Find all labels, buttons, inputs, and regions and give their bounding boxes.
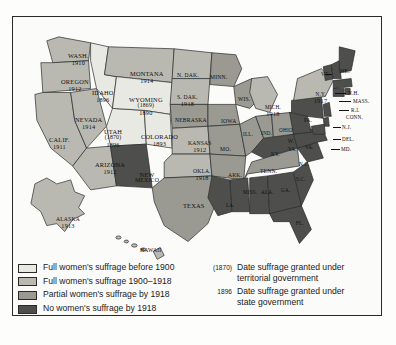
- state-texas: [152, 176, 218, 242]
- hawaii-islands: [116, 236, 164, 259]
- legend-swatch-tier_partial_by_1918: [18, 291, 37, 300]
- suffrage-map-figure: .s{stroke:#2a2a2a;stroke-width:.7;stroke…: [0, 0, 396, 345]
- leader-line-nh: [335, 93, 346, 94]
- state-new-mexico: [110, 144, 152, 188]
- legend-note-0: (1870)Date suffrage granted underterrito…: [202, 262, 382, 283]
- state-ark: [210, 154, 246, 180]
- legend-swatch-tier_full_before_1900: [18, 264, 37, 273]
- legend-notes-column: (1870)Date suffrage granted underterrito…: [202, 262, 382, 310]
- state-wash: [47, 37, 91, 63]
- legend-note-line1: Date suffrage granted under: [237, 286, 344, 297]
- non-contiguous-states: [31, 178, 164, 259]
- state-nj: [323, 102, 331, 116]
- state-utah: [106, 108, 146, 146]
- legend-label: No women's suffrage by 1918: [43, 303, 156, 314]
- state-sdak: [170, 79, 210, 105]
- leader-line-del: [333, 139, 341, 140]
- state-colorado: [144, 110, 172, 148]
- legend-label: Full women's suffrage before 1900: [43, 262, 174, 273]
- legend-note-1: 1896Date suffrage granted understate gov…: [202, 286, 382, 307]
- state-kansas: [172, 126, 210, 154]
- legend-note-date: 1896: [202, 286, 232, 297]
- state-mich: [250, 77, 278, 113]
- legend-note-line2: state government: [237, 297, 344, 308]
- legend-row-0: Full women's suffrage before 1900: [18, 262, 203, 274]
- legend-note-description: Date suffrage granted understate governm…: [237, 286, 344, 307]
- leader-line-md: [331, 149, 340, 150]
- state-md: [311, 124, 325, 134]
- state-okla: [164, 154, 212, 178]
- legend-note-description: Date suffrage granted underterritorial g…: [237, 262, 344, 283]
- west-states: [35, 37, 174, 190]
- state-me: [339, 47, 355, 73]
- state-miss: [230, 178, 250, 212]
- legend-row-1: Full women's suffrage 1900–1918: [18, 276, 203, 288]
- legend-note-date: (1870): [202, 262, 232, 273]
- state-iowa: [208, 104, 240, 126]
- state-alaska: [31, 178, 85, 232]
- state-nebraska: [170, 104, 208, 128]
- legend-note-line1: Date suffrage granted under: [237, 262, 344, 273]
- leader-line-nj: [333, 127, 341, 128]
- state-mo: [208, 124, 246, 156]
- leader-line-mass: [339, 101, 351, 102]
- state-mass: [333, 79, 352, 89]
- legend-label: Full women's suffrage 1900–1918: [43, 276, 172, 287]
- legend-row-3: No women's suffrage by 1918: [18, 303, 203, 315]
- legend-label: Partial women's suffrage by 1918: [43, 289, 170, 300]
- legend-swatch-tier_none_by_1918: [18, 305, 37, 314]
- map-legend: Full women's suffrage before 1900Full wo…: [12, 262, 382, 316]
- leader-line-vt: [325, 74, 332, 75]
- state-minn: [210, 53, 242, 87]
- legend-swatch-tier_full_1900_1918: [18, 277, 37, 286]
- legend-swatch-column: Full women's suffrage before 1900Full wo…: [18, 262, 203, 317]
- legend-note-line2: territorial government: [237, 273, 344, 284]
- legend-row-2: Partial women's suffrage by 1918: [18, 289, 203, 301]
- state-wyoming: [112, 77, 172, 115]
- state-ala: [250, 176, 270, 214]
- state-ndak: [172, 49, 212, 79]
- leader-line-ri: [339, 110, 349, 111]
- state-oregon: [41, 61, 91, 93]
